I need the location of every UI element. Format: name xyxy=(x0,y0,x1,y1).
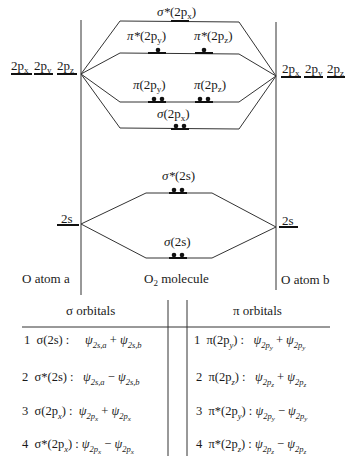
atom-a-label: O atom a xyxy=(22,272,70,285)
sigma-orbitals-header: σ orbitals xyxy=(66,303,115,319)
atom-a-2s-label: 2s xyxy=(61,212,73,225)
sigma-row-4: 4 σ*(2px) : ψ2px − ψ2px xyxy=(22,437,134,456)
pi-row-2: 2 π(2pz) : ψ2pz + ψ2pz xyxy=(196,370,306,389)
sigma-row-1: 1 σ(2s) : ψ2s,a + ψ2s,b xyxy=(24,333,142,350)
molecule-label: O2 molecule xyxy=(144,272,209,288)
sigma-row-2: 2 σ*(2s) : ψ2s,a − ψ2s,b xyxy=(22,370,140,387)
atom-b-label: O atom b xyxy=(281,273,329,286)
mo-label-sigma-star-2px: σ*(2px) xyxy=(157,5,196,21)
mo-label-sigma-2px: σ(2px) xyxy=(157,107,190,123)
atom-b-2py-label: 2py xyxy=(305,62,323,78)
pi-row-1: 1 π(2py) : ψ2py + ψ2py xyxy=(194,333,305,352)
pi-row-4: 4 π*(2pz) : ψ2pz − ψ2pz xyxy=(196,437,306,456)
atom-a-2px-label: 2px xyxy=(11,59,29,75)
atom-b-2pz-label: 2pz xyxy=(327,62,344,78)
mo-label-pi-star-2pz: π*(2pz) xyxy=(194,29,233,45)
atom-a-2pz-label: 2pz xyxy=(57,59,74,75)
mo-label-pi-star-2py: π*(2py) xyxy=(127,29,166,45)
atom-b-2px-label: 2px xyxy=(282,62,300,78)
pi-row-3: 3 π*(2py) : ψ2py − ψ2py xyxy=(196,404,307,423)
pi-orbitals-header: π orbitals xyxy=(233,303,282,319)
mo-label-pi-2pz: π(2pz) xyxy=(194,78,226,94)
mo-label-pi-2py: π(2py) xyxy=(133,78,166,94)
atom-b-2s-label: 2s xyxy=(282,214,294,227)
sigma-row-3: 3 σ(2px) : ψ2px + ψ2px xyxy=(22,404,131,423)
atom-a-2py-label: 2py xyxy=(34,59,52,75)
mo-label-sigma-2s: σ(2s) xyxy=(164,235,191,248)
mo-label-sigma-star-2s: σ*(2s) xyxy=(162,169,195,182)
